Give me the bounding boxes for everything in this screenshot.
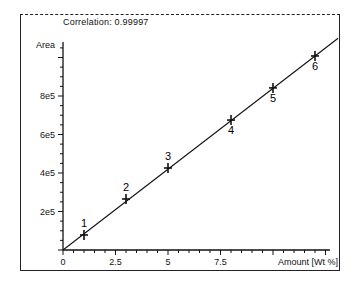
y-tick-label: 8e5 — [40, 91, 55, 101]
plot-area: 02.557.52e54e56e58e5AreaAmount [Wt %]123… — [0, 0, 360, 285]
y-tick-label: 2e5 — [40, 207, 55, 217]
x-axis-label: Amount [Wt %] — [278, 257, 338, 267]
x-tick-label: 7.5 — [214, 257, 227, 267]
regression-line — [63, 38, 338, 250]
y-axis-label: Area — [36, 40, 55, 50]
point-label: 1 — [81, 217, 87, 229]
x-tick-label: 0 — [60, 257, 65, 267]
point-label: 4 — [228, 124, 234, 136]
point-label: 6 — [312, 60, 318, 72]
y-tick-label: 4e5 — [40, 168, 55, 178]
point-label: 3 — [165, 150, 171, 162]
x-tick-label: 5 — [165, 257, 170, 267]
point-label: 2 — [123, 181, 129, 193]
point-label: 5 — [270, 92, 276, 104]
x-tick-label: 2.5 — [109, 257, 122, 267]
y-tick-label: 6e5 — [40, 130, 55, 140]
